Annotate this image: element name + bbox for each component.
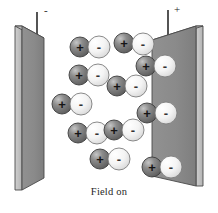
left-capacitor-plate bbox=[15, 26, 44, 190]
positive-ion-sphere: + bbox=[142, 157, 162, 177]
negative-ion-sphere-charge-symbol: - bbox=[134, 79, 138, 94]
negative-ion-sphere-charge-symbol: - bbox=[96, 68, 100, 83]
positive-ion-sphere: + bbox=[90, 149, 110, 169]
positive-ion-sphere-charge-symbol: + bbox=[58, 97, 66, 112]
capacitor-field-on-diagram: +-+-+-+-+-+-+-+-+-+-+- - + Field on bbox=[0, 0, 218, 213]
positive-ion-sphere-charge-symbol: + bbox=[110, 123, 118, 138]
positive-ion-sphere-charge-symbol: + bbox=[143, 106, 151, 121]
negative-ion-sphere: - bbox=[160, 156, 182, 178]
negative-ion-sphere: - bbox=[154, 55, 176, 77]
negative-ion-sphere-charge-symbol: - bbox=[97, 40, 101, 55]
dipole-molecule: +- bbox=[114, 33, 154, 55]
positive-ion-sphere-charge-symbol: + bbox=[142, 59, 150, 74]
positive-ion-sphere: + bbox=[136, 56, 156, 76]
positive-ion-sphere-charge-symbol: + bbox=[148, 160, 156, 175]
positive-ion-sphere: + bbox=[68, 123, 88, 143]
dipole-molecule: +- bbox=[107, 75, 147, 97]
negative-ion-sphere: - bbox=[155, 102, 177, 124]
positive-ion-sphere: + bbox=[52, 94, 72, 114]
negative-ion-sphere-charge-symbol: - bbox=[141, 37, 145, 52]
negative-ion-sphere-charge-symbol: - bbox=[79, 97, 83, 112]
negative-ion-sphere: - bbox=[70, 93, 92, 115]
positive-ion-sphere: + bbox=[70, 37, 90, 57]
negative-ion-sphere-charge-symbol: - bbox=[164, 106, 168, 121]
dipole-molecule: +- bbox=[70, 36, 110, 58]
negative-ion-sphere: - bbox=[108, 148, 130, 170]
positive-ion-sphere-charge-symbol: + bbox=[113, 79, 121, 94]
negative-ion-sphere-charge-symbol: - bbox=[163, 59, 167, 74]
positive-ion-sphere: + bbox=[114, 33, 134, 53]
negative-ion-sphere: - bbox=[132, 33, 154, 55]
positive-terminal-label: + bbox=[174, 4, 180, 15]
left-plate-side-edge bbox=[15, 26, 22, 190]
dipole-molecule: +- bbox=[90, 148, 130, 170]
positive-ion-sphere-charge-symbol: + bbox=[74, 126, 82, 141]
positive-ion-sphere: + bbox=[104, 120, 124, 140]
positive-ion-sphere-charge-symbol: + bbox=[75, 68, 83, 83]
positive-ion-sphere: + bbox=[69, 65, 89, 85]
dipole-molecule: +- bbox=[69, 64, 109, 86]
positive-ion-sphere: + bbox=[107, 76, 127, 96]
negative-ion-sphere-charge-symbol: - bbox=[131, 123, 135, 138]
dipole-molecule: +- bbox=[68, 122, 108, 144]
figure-caption: Field on bbox=[0, 186, 218, 197]
negative-ion-sphere: - bbox=[122, 119, 144, 141]
right-plate-side-edge bbox=[196, 26, 203, 186]
negative-ion-sphere: - bbox=[87, 64, 109, 86]
negative-ion-sphere: - bbox=[125, 75, 147, 97]
negative-ion-sphere: - bbox=[88, 36, 110, 58]
left-plate-face bbox=[22, 26, 44, 190]
negative-terminal-label: - bbox=[44, 5, 48, 16]
positive-ion-sphere-charge-symbol: + bbox=[96, 152, 104, 167]
diagram-canvas: +-+-+-+-+-+-+-+-+-+-+- bbox=[0, 0, 218, 213]
dipole-molecule: +- bbox=[104, 119, 144, 141]
negative-ion-sphere-charge-symbol: - bbox=[117, 152, 121, 167]
positive-ion-sphere: + bbox=[137, 103, 157, 123]
positive-ion-sphere-charge-symbol: + bbox=[76, 40, 84, 55]
positive-ion-sphere-charge-symbol: + bbox=[120, 36, 128, 51]
dipole-molecule: +- bbox=[52, 93, 92, 115]
negative-ion-sphere-charge-symbol: - bbox=[169, 160, 173, 175]
negative-ion-sphere-charge-symbol: - bbox=[95, 126, 99, 141]
